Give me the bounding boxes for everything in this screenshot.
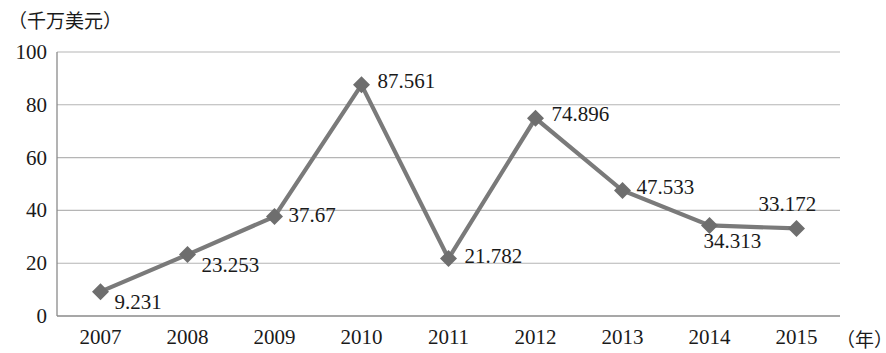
y-axis-tick-label: 40 bbox=[3, 200, 47, 221]
x-axis-tick-label: 2007 bbox=[66, 327, 136, 348]
data-point-label: 21.782 bbox=[465, 246, 523, 267]
x-axis-tick-label: 2012 bbox=[501, 327, 571, 348]
data-point-label: 47.533 bbox=[637, 177, 695, 198]
x-axis-tick-label: 2008 bbox=[153, 327, 223, 348]
x-axis-tick-label: 2015 bbox=[762, 327, 832, 348]
data-point-label: 74.896 bbox=[552, 104, 610, 125]
data-point-label: 37.67 bbox=[289, 205, 336, 226]
y-axis-tick-label: 60 bbox=[3, 148, 47, 169]
data-point-label: 23.253 bbox=[202, 255, 260, 276]
data-point-label: 87.561 bbox=[378, 71, 436, 92]
y-axis-tick-label: 80 bbox=[3, 95, 47, 116]
data-point-marker bbox=[92, 283, 109, 300]
data-point-marker bbox=[179, 246, 196, 263]
y-axis-tick-label: 20 bbox=[3, 253, 47, 274]
series-markers bbox=[92, 76, 805, 300]
axis-lines bbox=[57, 52, 840, 316]
y-axis-tick-label: 100 bbox=[3, 42, 47, 63]
line-chart: （千万美元） （年） 020406080100 2007200820092010… bbox=[0, 0, 886, 353]
data-point-marker bbox=[788, 220, 805, 237]
data-point-label: 9.231 bbox=[115, 292, 162, 313]
data-point-label: 33.172 bbox=[759, 194, 817, 215]
x-axis-tick-label: 2009 bbox=[240, 327, 310, 348]
x-axis-tick-label: 2011 bbox=[414, 327, 484, 348]
x-axis-tick-label: 2013 bbox=[588, 327, 658, 348]
data-point-label: 34.313 bbox=[704, 231, 762, 252]
y-axis-tick-label: 0 bbox=[3, 306, 47, 327]
x-axis-tick-label: 2014 bbox=[675, 327, 745, 348]
x-axis-tick-label: 2010 bbox=[327, 327, 397, 348]
